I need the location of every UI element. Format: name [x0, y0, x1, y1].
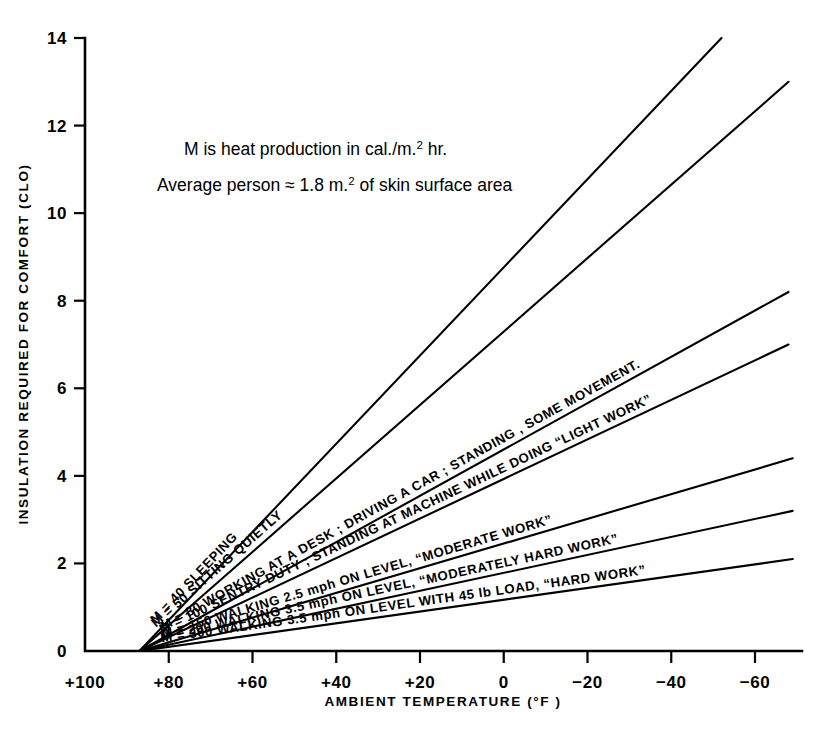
x-axis-tick-label: +80: [154, 673, 184, 692]
annotation-line-1: M is heat production in cal./m.2 hr.: [184, 139, 447, 159]
chart-figure: 02468101214 +100+80+60+40+200−20−40−60 M…: [0, 0, 824, 734]
annotation-line-2-main: Average person ≈ 1.8 m.: [157, 175, 348, 195]
y-axis-tick-label: 8: [57, 292, 67, 311]
x-axis-tick-label: −60: [740, 673, 770, 692]
y-axis-tick-label: 0: [57, 642, 67, 661]
y-axis-tick-label: 4: [57, 467, 67, 486]
x-axis-tick-label: +20: [405, 673, 435, 692]
x-axis-tick-label: −20: [572, 673, 602, 692]
y-axis-tick-label: 6: [57, 379, 67, 398]
x-axis-tick-labels: +100+80+60+40+200−20−40−60: [65, 673, 770, 692]
x-axis-tick-label: +40: [321, 673, 351, 692]
y-axis-tick-label: 12: [47, 117, 67, 136]
x-axis-ticks: [169, 651, 755, 663]
annotation-line-1-main: M is heat production in cal./m.: [184, 139, 416, 159]
x-axis-tick-label: +60: [237, 673, 267, 692]
annotation-line-1-tail: hr.: [423, 139, 447, 159]
y-axis-tick-labels: 02468101214: [47, 29, 67, 661]
chart-plot-svg: 02468101214 +100+80+60+40+200−20−40−60 M…: [0, 0, 824, 734]
annotation-line-2: Average person ≈ 1.8 m.2 of skin surface…: [157, 175, 512, 195]
y-axis-ticks: [74, 38, 85, 563]
series-label-300: M = 300 WALKING 3.5 mph ON LEVEL WITH 45…: [160, 562, 647, 645]
x-axis-tick-label: 0: [499, 673, 509, 692]
y-axis-tick-label: 10: [47, 204, 67, 223]
x-axis-tick-label: +100: [65, 673, 105, 692]
y-axis-tick-label: 2: [57, 554, 67, 573]
chart-series-labels: M = 40 SLEEPINGM = 50 SITTING QUIETLYM =…: [147, 356, 654, 645]
x-axis-tick-label: −40: [656, 673, 686, 692]
chart-annotation-note: M is heat production in cal./m.2 hr. Ave…: [157, 139, 512, 195]
annotation-line-2-tail: of skin surface area: [355, 175, 513, 195]
y-axis-title: INSULATION REQUIRED FOR COMFORT (CLO): [16, 163, 31, 524]
y-axis-tick-label: 14: [47, 29, 67, 48]
x-axis-title: AMBIENT TEMPERATURE (°F ): [324, 694, 561, 709]
